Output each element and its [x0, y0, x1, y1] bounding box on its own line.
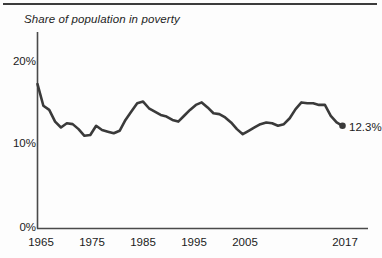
x-axis-tick-label-2017: 2017 — [325, 236, 365, 248]
series-end-value-label: 12.3% — [349, 121, 382, 133]
y-axis-tick-label-20: 20% — [2, 55, 36, 67]
x-axis-tick-label-2005: 2005 — [225, 236, 265, 248]
x-axis-tick-label-1985: 1985 — [123, 236, 163, 248]
x-axis-tick-label-1995: 1995 — [174, 236, 214, 248]
y-axis-tick-label-0: 0% — [2, 221, 36, 233]
chart-axes — [37, 32, 368, 229]
series-end-point-marker — [339, 123, 346, 130]
data-series-poverty-rate — [38, 84, 346, 136]
x-axis-tick-label-1965: 1965 — [21, 236, 61, 248]
x-axis-tick-label-1975: 1975 — [72, 236, 112, 248]
y-axis-tick-label-10: 10% — [2, 137, 36, 149]
series-line-path — [38, 84, 343, 136]
